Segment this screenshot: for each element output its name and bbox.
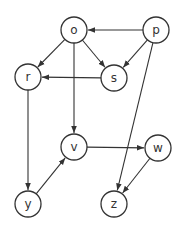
node-o: o (61, 17, 87, 43)
edges-layer (28, 30, 153, 194)
edge-p-to-s (123, 40, 147, 68)
node-w: w (145, 135, 171, 161)
node-label: r (26, 70, 31, 84)
node-label: v (70, 140, 77, 154)
node-label: z (111, 197, 117, 211)
node-label: y (24, 197, 31, 211)
node-s: s (101, 65, 127, 91)
edge-o-to-s (82, 40, 105, 67)
node-label: w (153, 141, 163, 155)
edge-p-to-z (117, 43, 153, 191)
edge-v-to-w (87, 147, 144, 148)
edge-y-to-v (36, 158, 65, 194)
node-y: y (15, 191, 41, 217)
node-label: o (70, 23, 77, 37)
edge-s-to-r (42, 77, 101, 78)
node-z: z (101, 191, 127, 217)
nodes-layer: oprsvwyz (15, 17, 171, 217)
node-label: s (111, 71, 117, 85)
directed-graph: oprsvwyz (0, 0, 185, 232)
node-r: r (15, 64, 41, 90)
node-p: p (143, 17, 169, 43)
edge-w-to-z (123, 158, 150, 193)
edge-o-to-r (38, 39, 65, 67)
node-label: p (152, 23, 160, 37)
node-v: v (61, 134, 87, 160)
